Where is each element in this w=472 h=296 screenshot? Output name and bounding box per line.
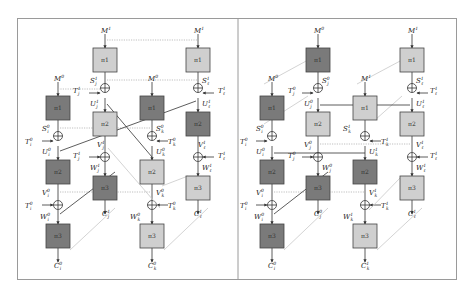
permutation-box-l_d_pi3: π3: [186, 176, 210, 200]
math-label: T1j: [73, 151, 81, 161]
permutation-box-r_a_pi1: π1: [260, 96, 284, 120]
box-label: π1: [54, 104, 62, 111]
permutation-box-r_a_pi2: π2: [260, 160, 284, 184]
math-label: W0i: [40, 212, 50, 222]
math-label: T1k: [381, 137, 389, 147]
box-label: π3: [101, 184, 109, 191]
box-label: π3: [268, 232, 276, 239]
box-label: π3: [408, 184, 416, 191]
math-label: S1ℓ: [416, 76, 424, 86]
math-label: V1j: [97, 140, 105, 150]
math-label: M0: [267, 74, 278, 83]
math-label: M1: [407, 26, 418, 35]
math-label: T0i: [240, 201, 248, 211]
box-label: π2: [54, 168, 62, 175]
xor-icon: [101, 84, 110, 93]
permutation-box-r_d_pi3: π3: [400, 176, 424, 200]
permutation-box-l_a_pi1: π1: [46, 96, 70, 120]
math-label: M1: [100, 26, 111, 35]
math-label: M0: [147, 74, 158, 83]
right-boxes: π1π1π1π1π2π2π2π2π3π3π3π3: [260, 48, 424, 248]
box-label: π2: [314, 120, 322, 127]
math-label: T0i: [240, 137, 248, 147]
box-label: π3: [361, 232, 369, 239]
box-label: π3: [314, 184, 322, 191]
math-label: W1ℓ: [416, 163, 426, 173]
math-label: C0i: [268, 261, 276, 271]
box-label: π1: [408, 56, 416, 63]
box-label: π3: [148, 232, 156, 239]
math-label: S0j: [322, 76, 330, 86]
math-label: T1ℓ: [430, 86, 438, 96]
box-label: π2: [101, 120, 109, 127]
left-boxes: π1π1π1π1π2π2π2π2π3π3π3π3: [46, 48, 210, 248]
math-label: T1k: [381, 201, 389, 211]
math-label: U1k: [369, 147, 378, 157]
math-label: T0k: [168, 201, 176, 211]
diagram-canvas: π1π1π1π1π2π2π2π2π3π3π3π3 M1M1M0M0S1jS1ℓT…: [0, 0, 472, 296]
math-label: T1ℓ: [218, 86, 226, 96]
permutation-box-l_b_pi2: π2: [93, 112, 117, 136]
math-label: U1j: [90, 99, 99, 109]
xor-icon: [101, 153, 110, 162]
math-label: V0i: [42, 188, 50, 198]
math-label: T1ℓ: [430, 151, 438, 161]
box-label: π2: [148, 168, 156, 175]
math-label: W1j: [90, 163, 100, 173]
xor-icon: [268, 132, 277, 141]
outer-frame: [18, 19, 457, 280]
math-label: V0j: [304, 140, 312, 150]
box-label: π3: [54, 232, 62, 239]
math-label: T0i: [25, 137, 33, 147]
permutation-box-l_c_pi1: π1: [140, 96, 164, 120]
xor-icon: [408, 153, 417, 162]
permutation-box-l_d_pi1: π1: [186, 48, 210, 72]
math-label: W0i: [254, 212, 264, 222]
left-panel: π1π1π1π1π2π2π2π2π3π3π3π3 M1M1M0M0S1jS1ℓT…: [25, 26, 226, 271]
math-label: C1j: [102, 209, 110, 219]
xor-icon: [194, 153, 203, 162]
math-label: W1ℓ: [202, 163, 212, 173]
permutation-box-r_b_pi3: π3: [306, 176, 330, 200]
math-label: T0j: [288, 86, 296, 96]
xor-icon: [268, 201, 277, 210]
permutation-box-l_b_pi3: π3: [93, 176, 117, 200]
math-label: M0: [313, 26, 324, 35]
math-label: S1k: [343, 124, 351, 134]
xor-icon: [361, 132, 370, 141]
math-label: U0i: [42, 147, 51, 157]
math-label: T1j: [73, 86, 81, 96]
box-label: π1: [101, 56, 109, 63]
math-label: V1ℓ: [198, 140, 206, 150]
permutation-box-l_a_pi2: π2: [46, 160, 70, 184]
math-label: C0j: [314, 209, 322, 219]
math-label: V1k: [369, 188, 377, 198]
box-label: π1: [314, 56, 322, 63]
math-label: S1ℓ: [202, 76, 210, 86]
permutation-box-r_c_pi1: π1: [353, 96, 377, 120]
math-label: V0k: [156, 188, 164, 198]
permutation-box-r_b_pi1: π1: [306, 48, 330, 72]
xor-icon: [54, 132, 63, 141]
box-label: π1: [268, 104, 276, 111]
box-label: π1: [148, 104, 156, 111]
math-label: U1ℓ: [202, 99, 211, 109]
math-label: V0i: [256, 188, 264, 198]
permutation-box-l_c_pi2: π2: [140, 160, 164, 184]
math-label: S0k: [156, 124, 164, 134]
box-label: π3: [194, 184, 202, 191]
box-label: π2: [361, 168, 369, 175]
math-label: W0j: [322, 163, 332, 173]
math-label: C0k: [148, 261, 157, 271]
math-label: C1k: [361, 261, 370, 271]
box-label: π2: [194, 120, 202, 127]
math-label: M1: [360, 74, 371, 83]
xor-icon: [314, 153, 323, 162]
math-label: C1ℓ: [194, 209, 202, 219]
xor-icon: [361, 201, 370, 210]
math-label: M0: [53, 74, 64, 83]
math-label: U0i: [256, 147, 265, 157]
permutation-box-l_a_pi3: π3: [46, 224, 70, 248]
math-label: V1ℓ: [416, 140, 424, 150]
right-panel: π1π1π1π1π2π2π2π2π3π3π3π3 M0M1M0M1S0jS1ℓT…: [240, 26, 438, 271]
